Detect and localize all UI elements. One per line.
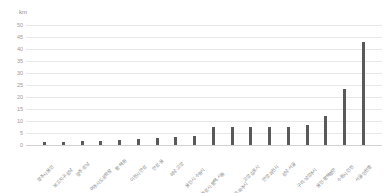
bar — [156, 138, 159, 145]
y-axis-tick-label: 0 — [20, 142, 23, 148]
bar — [99, 141, 102, 145]
bar-slot — [317, 25, 335, 145]
bar-slot — [36, 25, 54, 145]
x-axis-labels-group: 광주시·용인보고지구·성남광주·성남여주시도로확장평·택원이천시·안성안성·용하… — [26, 147, 382, 193]
y-axis-tick-label: 20 — [17, 94, 23, 100]
x-axis-tick-label: 광주시·용인 — [51, 149, 70, 168]
bar — [118, 140, 121, 145]
x-axis-tick-label: 서울·인천항 — [370, 149, 389, 168]
y-axis-tick-label: 30 — [17, 70, 23, 76]
bar-slot — [242, 25, 260, 145]
bar — [193, 136, 196, 145]
bars-group — [26, 25, 382, 145]
bar-slot — [354, 25, 372, 145]
bar-chart: km 50454035302520151050 광주시·용인보고지구·성남광주·… — [0, 0, 392, 193]
bar-slot — [148, 25, 166, 145]
bar — [249, 127, 252, 145]
y-axis-tick-label: 35 — [17, 58, 23, 64]
y-axis-tick-label: 25 — [17, 82, 23, 88]
bar-slot — [92, 25, 110, 145]
y-axis-tick-label: 50 — [17, 22, 23, 28]
bar-slot — [73, 25, 91, 145]
bar — [174, 137, 177, 145]
bar — [81, 141, 84, 145]
bar-slot — [111, 25, 129, 145]
plot-area: 50454035302520151050 — [26, 25, 382, 145]
y-axis-tick-label: 15 — [17, 106, 23, 112]
bar-slot — [298, 25, 316, 145]
x-axis-tick-label: 화성시·평택·시흥 — [222, 149, 248, 175]
y-axis-tick-label: 40 — [17, 46, 23, 52]
bar — [362, 42, 365, 145]
bar-slot — [54, 25, 72, 145]
bar — [62, 142, 65, 145]
y-axis-tick-label: 45 — [17, 34, 23, 40]
bar — [343, 89, 346, 145]
bar — [231, 127, 234, 145]
bar-slot — [167, 25, 185, 145]
bar — [43, 142, 46, 145]
x-axis-tick-label: 성남·서울 — [293, 149, 309, 165]
y-axis-tick-label: 5 — [20, 130, 23, 136]
bar-slot — [261, 25, 279, 145]
y-axis-unit-label: km — [19, 9, 27, 16]
bar — [137, 139, 140, 145]
bar — [212, 127, 215, 145]
x-axis-tick-label: 안성·용 — [161, 149, 174, 162]
bar — [324, 116, 327, 145]
bar-slot — [129, 25, 147, 145]
bar-slot — [204, 25, 222, 145]
bar-slot — [336, 25, 354, 145]
bar — [287, 127, 290, 145]
y-axis-tick-label: 10 — [17, 118, 23, 124]
bar-slot — [279, 25, 297, 145]
bar-slot — [186, 25, 204, 145]
bar-slot — [223, 25, 241, 145]
x-axis-tick-label: 하남·고양 — [181, 149, 197, 165]
x-axis-tick-label: 용인시·수원시 — [202, 149, 224, 171]
bar — [268, 127, 271, 145]
gridline — [26, 145, 382, 146]
bar — [306, 125, 309, 145]
